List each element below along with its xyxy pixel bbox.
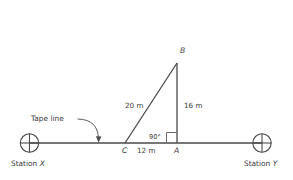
station-y-marker (252, 133, 271, 152)
station-y-name: Station (244, 159, 270, 168)
station-x-name: Station (11, 159, 37, 168)
tape-line-arrowhead (96, 136, 102, 142)
tape-line-leader-arrow (78, 119, 99, 138)
station-x-marker (20, 133, 39, 152)
measurement-label-20m: 20 m (125, 102, 143, 109)
measurement-label-16m: 16 m (184, 102, 202, 109)
station-y-letter: Y (273, 159, 278, 168)
measurement-label-12m: 12 m (137, 147, 155, 154)
station-x-label: Station X (11, 160, 45, 167)
point-label-c: C (122, 147, 127, 155)
point-label-a: A (174, 147, 179, 155)
diagram-figure: B C A 20 m 16 m 12 m 90° Tape line Stati… (0, 0, 293, 180)
right-angle-marker (167, 133, 178, 144)
station-x-letter: X (40, 159, 45, 168)
tape-line-label: Tape line (31, 115, 64, 122)
angle-label-90: 90° (149, 134, 161, 141)
point-label-b: B (180, 47, 185, 55)
station-y-label: Station Y (244, 160, 277, 167)
